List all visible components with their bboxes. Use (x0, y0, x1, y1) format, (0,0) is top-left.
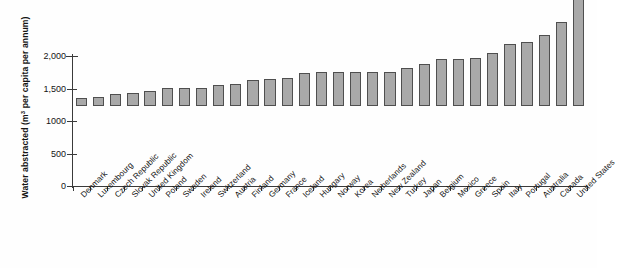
x-axis-category-labels: DenmarkLuxembourgCzech RepublicSlovak Re… (0, 0, 597, 268)
water-abstraction-bar-chart: Water abstracted (m3 per capita per annu… (0, 0, 597, 268)
